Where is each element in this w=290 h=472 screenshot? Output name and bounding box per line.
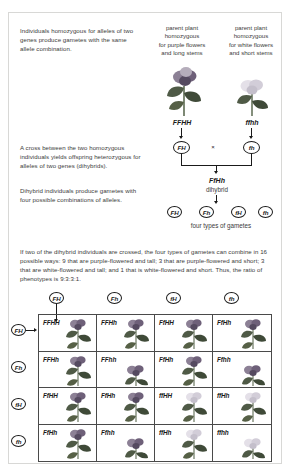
punnett-cell-plant-icon [178, 316, 211, 350]
arrowhead-left-genotype [179, 136, 183, 139]
parent-left-caption-line-3: for purple flowers [146, 41, 218, 49]
punnett-cell-genotype: FfHH [159, 319, 174, 326]
punnett-cell-r1c1: FFHH [39, 315, 97, 352]
punnett-cell-plant-icon [120, 353, 153, 387]
punnett-cell-r3c3: ffHH [155, 388, 213, 425]
arrowhead-to-four-gametes [214, 201, 218, 204]
punnett-cell-plant-icon [237, 316, 270, 350]
punnett-cell-genotype: Ffhh [101, 429, 114, 436]
punnett-cell-plant-icon [178, 389, 211, 423]
punnett-cell-r2c4: Ffhh [213, 352, 271, 389]
punnett-cell-genotype: FfHH [43, 392, 58, 399]
parent-right-caption-line-2: homozygous [216, 32, 286, 40]
parent-left-caption: parent plant homozygous for purple flowe… [146, 24, 218, 58]
punnett-cell-plant-icon [120, 316, 153, 350]
parent-right-caption-line-3: for white flowers [216, 41, 286, 49]
punnett-cell-genotype: FFHh [43, 356, 59, 363]
punnett-cell-r1c4: FfHh [213, 315, 271, 352]
arrowhead-to-dihybrid [214, 171, 218, 174]
punnett-cell-genotype: FFHh [101, 319, 117, 326]
punnett-cell-genotype: ffhh [217, 429, 229, 436]
figure-root: Individuals homozygous for alleles of tw… [0, 0, 290, 472]
punnett-cell-plant-icon [120, 389, 153, 423]
punnett-cell-plant-icon [62, 426, 95, 460]
parent-right-caption-line-4: and short stems [216, 49, 286, 57]
offspring-gamete-2: Fh [199, 206, 214, 218]
punnett-cell-r3c2: FfHh [97, 388, 155, 425]
punnett-cell-r4c1: FfHh [39, 425, 97, 462]
punnett-column-header-1: FH [49, 292, 64, 304]
parent-left-genotype: FFHH [152, 119, 212, 126]
arrowhead-right-genotype [249, 136, 253, 139]
punnett-cell-r3c1: FfHH [39, 388, 97, 425]
punnett-cell-genotype: FfHh [43, 429, 57, 436]
offspring-label: dihybrid [187, 186, 247, 193]
punnett-row-header-1: FH [11, 324, 26, 336]
punnett-cell-r3c4: ffHh [213, 388, 271, 425]
offspring-gamete-3: fH [231, 206, 246, 218]
punnett-cell-plant-icon [178, 426, 211, 460]
punnett-cell-r2c1: FFHh [39, 352, 97, 389]
punnett-cell-plant-icon [62, 316, 95, 350]
annotation-note-1: Individuals homozygous for alleles of tw… [20, 26, 142, 53]
punnett-column-header-3: fH [166, 292, 181, 304]
punnett-cell-genotype: FFhh [101, 356, 116, 363]
offspring-gamete-4: fh [258, 206, 273, 218]
punnett-cell-genotype: FfHh [101, 392, 115, 399]
punnett-cell-r2c2: FFhh [97, 352, 155, 389]
parent-right-caption: parent plant homozygous for white flower… [216, 24, 286, 58]
punnett-cell-r4c4: ffhh [213, 425, 271, 462]
punnett-cell-plant-icon [62, 353, 95, 387]
four-gametes-caption: four types of gametes [160, 222, 282, 229]
punnett-cell-genotype: FFHH [43, 319, 60, 326]
parent-right-genotype: ffhh [224, 119, 280, 126]
parent-left-plant-icon [156, 62, 212, 118]
punnett-column-header-2: Fh [107, 292, 122, 304]
punnett-cell-genotype: FfHh [217, 319, 231, 326]
punnett-cell-plant-icon [237, 353, 270, 387]
punnett-column-header-4: fh [224, 292, 239, 304]
parent-left-caption-line-2: homozygous [146, 32, 218, 40]
punnett-cell-r1c2: FFHh [97, 315, 155, 352]
annotation-note-2: A cross between the two homozygous indiv… [20, 143, 144, 170]
punnett-cell-r1c3: FfHH [155, 315, 213, 352]
punnett-cell-plant-icon [237, 426, 270, 460]
punnett-cell-genotype: ffHH [159, 392, 172, 399]
punnett-cell-genotype: FfHh [159, 356, 173, 363]
parent-right-plant-icon [228, 74, 276, 118]
arrowhead-row1 [34, 328, 37, 332]
punnett-row-header-4: fh [11, 435, 26, 447]
offspring-genotype: FfHh [187, 177, 247, 184]
punnett-cell-genotype: ffHh [217, 392, 229, 399]
gamete-parent-left: FH [173, 141, 190, 154]
punnett-row-header-2: Fh [11, 361, 26, 373]
punnett-cell-plant-icon [178, 353, 211, 387]
punnett-row-header-3: fH [11, 398, 26, 410]
cross-symbol: × [205, 144, 221, 150]
punnett-cell-genotype: Ffhh [217, 356, 230, 363]
offspring-gamete-1: FH [167, 206, 182, 218]
punnett-cell-plant-icon [120, 426, 153, 460]
punnett-cell-r2c3: FfHh [155, 352, 213, 389]
punnett-cell-plant-icon [62, 389, 95, 423]
gamete-parent-right: fh [243, 141, 260, 154]
punnett-square: FFHH FFHh FfHH FfHh FFHh [38, 314, 272, 462]
parent-left-caption-line-1: parent plant [146, 24, 218, 32]
annotation-note-4: If two of the dihybrid individuals are c… [20, 247, 272, 283]
parent-right-caption-line-1: parent plant [216, 24, 286, 32]
punnett-cell-plant-icon [237, 389, 270, 423]
parent-left-caption-line-4: and long stems [146, 49, 218, 57]
punnett-cell-r4c2: Ffhh [97, 425, 155, 462]
punnett-cell-r4c3: ffHh [155, 425, 213, 462]
punnett-cell-genotype: ffHh [159, 429, 171, 436]
annotation-note-3: Dihybrid individuals produce gametes wit… [20, 186, 144, 204]
